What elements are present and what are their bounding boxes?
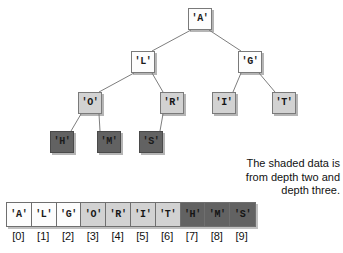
array-cell-value: 'R'	[110, 210, 127, 220]
tree-node-label: 'O'	[81, 98, 98, 108]
caption-text: The shaded data isfrom depth two anddept…	[202, 157, 340, 198]
array-cell-1: 'L'	[32, 203, 57, 226]
caption-line: depth three.	[202, 184, 340, 198]
array-cell-value: 'O'	[85, 210, 102, 220]
array-cell-value: 'A'	[10, 210, 27, 220]
tree-node-label: 'I'	[215, 98, 232, 108]
tree-node-s: 'S'	[139, 131, 163, 153]
array-cell-3: 'O'	[81, 203, 106, 226]
array-cell-value: 'T'	[159, 210, 176, 220]
array-index-1: [1]	[31, 229, 56, 243]
tree-node-label: 'S'	[142, 137, 159, 147]
tree-edge-n3-n8	[99, 114, 100, 131]
tree-edge-n0-n2	[209, 30, 241, 51]
tree-node-label: 'L'	[134, 57, 151, 67]
array-cell-7: 'H'	[181, 203, 206, 226]
caption-line: from depth two and	[202, 171, 340, 185]
array-cell-5: 'I'	[131, 203, 156, 226]
array-cell-0: 'A'	[7, 203, 32, 226]
tree-node-t: 'T'	[272, 92, 296, 114]
caption-line: The shaded data is	[202, 157, 340, 171]
array-cell-8: 'M'	[205, 203, 230, 226]
array-index-2: [2]	[56, 229, 81, 243]
tree-node-label: 'G'	[241, 57, 258, 67]
array-cell-9: 'S'	[230, 203, 255, 226]
tree-node-m: 'M'	[97, 131, 121, 153]
array-index-4: [4]	[105, 229, 130, 243]
array-cell-value: 'H'	[184, 210, 201, 220]
tree-edge-n0-n1	[152, 30, 191, 51]
tree-edge-n2-n6	[259, 73, 275, 92]
tree-node-l: 'L'	[131, 51, 155, 73]
tree-edge-n1-n4	[152, 73, 163, 92]
tree-node-i: 'I'	[212, 92, 236, 114]
array-index-7: [7]	[180, 229, 205, 243]
array-cell-value: 'M'	[209, 210, 226, 220]
array-cell-4: 'R'	[106, 203, 131, 226]
tree-node-a: 'A'	[188, 8, 212, 30]
tree-node-label: 'M'	[100, 137, 117, 147]
array-index-labels: [0][1][2][3][4][5][6][7][8][9]	[6, 229, 254, 243]
tree-node-h: 'H'	[50, 131, 74, 153]
array-index-9: [9]	[229, 229, 254, 243]
tree-edge-n1-n3	[99, 73, 134, 92]
array-cell-value: 'I'	[134, 210, 151, 220]
tree-node-label: 'T'	[275, 98, 292, 108]
array-representation: 'A''L''G''O''R''I''T''H''M''S'	[6, 202, 256, 227]
tree-node-g: 'G'	[238, 51, 262, 73]
array-index-6: [6]	[155, 229, 180, 243]
array-cell-value: 'L'	[35, 210, 52, 220]
tree-edge-n3-n7	[71, 114, 81, 131]
tree-node-label: 'H'	[53, 137, 70, 147]
tree-node-r: 'R'	[160, 92, 184, 114]
tree-node-label: 'R'	[163, 98, 180, 108]
tree-node-label: 'A'	[191, 14, 208, 24]
array-cell-2: 'G'	[57, 203, 82, 226]
tree-edge-n4-n9	[160, 114, 163, 131]
array-index-0: [0]	[6, 229, 31, 243]
array-index-8: [8]	[204, 229, 229, 243]
array-index-5: [5]	[130, 229, 155, 243]
array-cell-value: 'G'	[60, 210, 77, 220]
tree-node-o: 'O'	[78, 92, 102, 114]
array-cell-6: 'T'	[156, 203, 181, 226]
tree-edge-n2-n5	[233, 73, 241, 92]
array-index-3: [3]	[80, 229, 105, 243]
array-cell-value: 'S'	[234, 210, 251, 220]
binary-tree-array-figure: 'A''L''G''O''R''I''T''H''M''S' The shade…	[0, 0, 343, 253]
